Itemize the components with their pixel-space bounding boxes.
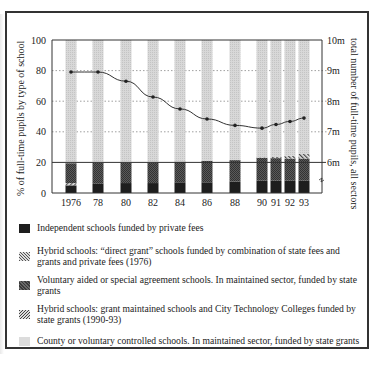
swatch-independent [19,224,30,233]
stacked-bars [66,40,310,193]
right-tick-label: 10m [327,35,345,46]
line-point [205,117,209,121]
x-tick-label: 80 [121,197,131,208]
bar-segment-indep [202,182,213,193]
total-pupils-line [69,70,306,130]
x-tick-label: 91 [271,197,281,208]
bar-segment-va [121,162,132,183]
bar-segment-va [271,158,282,181]
bar-segment-county [148,40,159,162]
x-tick-label: 86 [202,197,212,208]
line-point [233,124,237,128]
bar-86 [202,40,213,193]
x-tick-label: 90 [257,197,267,208]
right-tick-label: 7m [327,126,340,137]
bar-segment-indep [257,181,268,193]
bar-segment-county [93,40,104,162]
bar-90 [257,40,268,193]
legend-label: Voluntary aided or special agreement sch… [37,274,357,296]
x-tick-label: 93 [299,197,309,208]
line-point [151,95,155,99]
bar-segment-indep [299,181,310,193]
legend-item-voluntary-aided: Voluntary aided or special agreement sch… [16,274,361,296]
right-tick-label: 6m [327,157,340,168]
bar-segment-va [257,158,268,181]
left-tick-label: 60 [36,96,46,107]
legend-item-grant-maintained: Hybrid schools: grant maintained schools… [16,303,361,325]
right-tick-label: 9m [327,65,340,76]
bar-80 [121,40,132,193]
legend-label: Hybrid schools: grant maintained schools… [37,303,356,325]
bar-segment-gm [299,154,310,159]
bar-segment-indep [175,182,186,193]
line-point [288,120,292,124]
bar-segment-county [299,40,310,154]
bar-segment-indep [271,181,282,193]
left-tick-label: 0 [41,188,46,199]
x-tick-label: 92 [285,197,295,208]
swatch-grant-maintained [19,310,30,319]
bar-segment-indep [285,181,296,193]
line-point [96,70,100,74]
bar-segment-county [285,40,296,156]
x-tick-label: 82 [148,197,158,208]
bar-segment-va [230,160,241,181]
bar-segment-gm [285,156,296,159]
x-tick-label: 84 [175,197,185,208]
line-point [260,126,264,130]
swatch-voluntary-aided [19,281,30,290]
line-point [178,107,182,111]
x-tick-label: 78 [93,197,103,208]
legend-item-direct-grant: Hybrid schools: “direct grant” schools f… [16,245,361,267]
bar-84 [175,40,186,193]
line-point [69,70,73,74]
bar-segment-county [66,40,77,163]
bar-segment-indep [148,183,159,193]
right-axis-title: total number of full-time pupils, all se… [349,38,360,209]
legend-label: Hybrid schools: “direct grant” schools f… [37,245,340,267]
right-tick-label: 8m [327,96,340,107]
bar-segment-direct [66,183,77,185]
x-tick-label: 1976 [61,197,81,208]
legend-item-independent: Independent schools funded by private fe… [16,222,361,233]
left-tick-label: 100 [31,35,46,46]
bar-segment-county [202,40,213,161]
bar-segment-gm [271,157,282,158]
swatch-direct-grant [19,252,30,261]
legend-label: Independent schools funded by private fe… [37,222,204,233]
bar-91 [271,40,282,193]
bar-segment-indep [230,182,241,193]
bar-segment-va [93,162,104,183]
left-tick-label: 20 [36,157,46,168]
bar-segment-va [202,161,213,182]
bar-segment-county [271,40,282,157]
legend-label: County or voluntary controlled schools. … [37,335,359,346]
left-axis-title: % of full-time pupils by type of school [15,41,26,196]
bar-segment-county [175,40,186,162]
bar-segment-indep [121,183,132,193]
bar-segment-county [257,40,268,157]
bar-92 [285,40,296,193]
bar-1976 [66,40,77,193]
x-tick-label: 88 [230,197,240,208]
bar-segment-indep [93,184,104,193]
bar-segment-county [121,40,132,162]
line-point [274,123,278,127]
chart: 10080604020010m9m8m7m6m% of full-time pu… [0,0,377,220]
line-point [124,79,128,83]
bar-82 [148,40,159,193]
bar-segment-va [175,162,186,183]
bar-segment-indep [66,185,77,193]
bar-segment-va [66,163,77,183]
left-tick-label: 80 [36,65,46,76]
bar-segment-va [148,162,159,183]
bar-78 [93,40,104,193]
left-tick-label: 40 [36,126,46,137]
bar-segment-county [230,40,241,160]
line-point [302,116,306,120]
swatch-county [19,337,30,346]
bar-88 [230,40,241,193]
legend-item-county: County or voluntary controlled schools. … [16,335,361,346]
legend: Independent schools funded by private fe… [16,222,361,346]
